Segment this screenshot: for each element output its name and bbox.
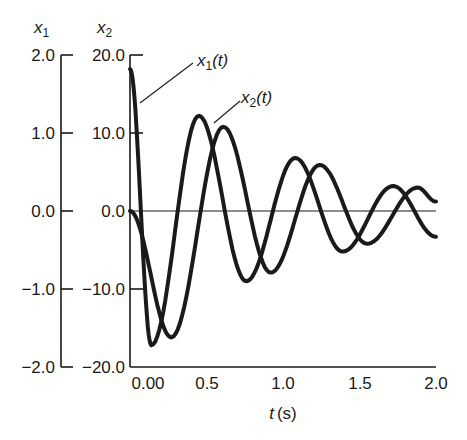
- x2-tick-label: 20.0: [92, 46, 125, 65]
- x1-tick-label: −1.0: [21, 280, 55, 299]
- x1-curve-label: x1(t): [196, 51, 228, 73]
- x2-axis-title: x2: [96, 18, 113, 40]
- time-tick-label: 1.5: [348, 374, 372, 393]
- time-axis: 0.00 0.5 1.0 1.5 2.0 t(s): [130, 367, 448, 423]
- x1-curve: [130, 69, 436, 345]
- time-tick-label: 0.00: [131, 374, 164, 393]
- x1-axis: 2.0 1.0 0.0 −1.0 −2.0 x1: [21, 18, 73, 377]
- time-axis-title: t(s): [269, 404, 297, 423]
- time-tick-label: 2.0: [424, 374, 448, 393]
- time-tick-label: 0.5: [195, 374, 219, 393]
- x1-axis-title: x1: [33, 18, 50, 40]
- x1-tick-label: 1.0: [31, 124, 55, 143]
- x1-tick-label: 2.0: [31, 46, 55, 65]
- x2-tick-label: 10.0: [92, 124, 125, 143]
- x1-leader-line: [140, 63, 193, 103]
- x2-curve-label: x2(t): [240, 88, 272, 110]
- x1-tick-label: 0.0: [31, 202, 55, 221]
- chart: 2.0 1.0 0.0 −1.0 −2.0 x1 20.0 10.0 0.0 −…: [0, 0, 467, 440]
- x1-tick-label: −2.0: [21, 358, 55, 377]
- x2-tick-label: −10.0: [82, 280, 125, 299]
- x2-axis: 20.0 10.0 0.0 −10.0 −20.0 x2: [82, 18, 143, 377]
- x2-leader-line: [214, 101, 240, 123]
- x2-tick-label: 0.0: [101, 202, 125, 221]
- x2-tick-label: −20.0: [82, 358, 125, 377]
- time-tick-label: 1.0: [271, 374, 295, 393]
